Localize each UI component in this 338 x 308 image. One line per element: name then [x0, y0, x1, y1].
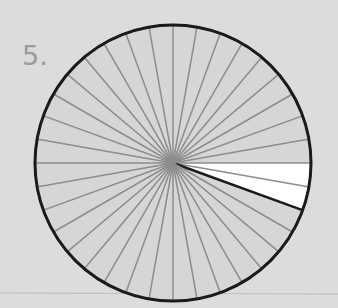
fraction-circle-diagram: [0, 0, 338, 308]
